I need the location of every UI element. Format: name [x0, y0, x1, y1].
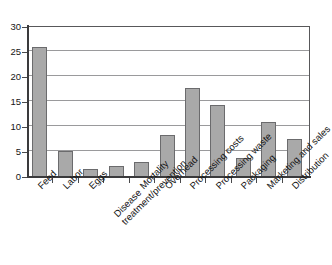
y-tick-label-5: 5: [0, 147, 21, 157]
y-tick-mark-15: [22, 102, 27, 103]
bar: [32, 47, 47, 177]
x-tick-mark-4: [129, 178, 130, 183]
y-tick-label-15: 15: [0, 97, 21, 107]
y-tick-label-25: 25: [0, 47, 21, 57]
y-tick-label-30: 30: [0, 22, 21, 32]
y-tick-mark-5: [22, 152, 27, 153]
y-tick-mark-30: [22, 27, 27, 28]
y-tick-mark-10: [22, 127, 27, 128]
y-tick-mark-25: [22, 52, 27, 53]
y-tick-label-0: 0: [0, 172, 21, 182]
y-tick-label-20: 20: [0, 72, 21, 82]
y-tick-mark-20: [22, 77, 27, 78]
y-tick-label-10: 10: [0, 122, 21, 132]
